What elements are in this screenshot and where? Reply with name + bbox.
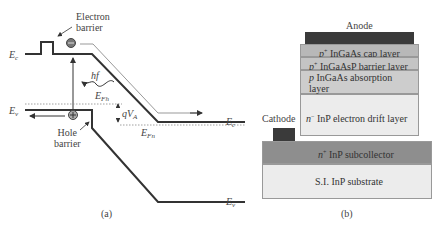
electron-barrier-label-line2: barrier <box>76 22 110 33</box>
ec-left-label: Ec <box>9 49 18 64</box>
efn-label: EFn <box>141 127 155 142</box>
layer-drift: n− InP electron drift layer <box>300 94 419 136</box>
electron-barrier-label-line1: Electron <box>76 11 110 22</box>
cathode-label: Cathode <box>262 113 295 124</box>
valence-band <box>25 110 245 202</box>
anode-label: Anode <box>346 20 373 31</box>
layer-barrier: p+ InGaAsP barrier layer <box>300 57 419 70</box>
layer-absorption: p InGaAs absorption layer <box>300 70 419 94</box>
hole-barrier-label: Hole barrier <box>54 127 81 149</box>
ev-left-label: Ev <box>9 105 18 120</box>
photon-label: hf <box>91 70 99 81</box>
caption-a: (a) <box>101 208 112 219</box>
layer-cap: p+ InGaAs cap layer <box>300 44 419 57</box>
layer-subcollector: n+ InP subcollector <box>262 141 432 164</box>
ec-right-label: Ec <box>226 116 235 131</box>
ev-right-label: Ev <box>226 196 235 211</box>
caption-b: (b) <box>341 208 353 219</box>
anode-contact <box>305 32 414 44</box>
electron-barrier-label: Electron barrier <box>76 11 110 33</box>
photon-wave <box>82 81 114 87</box>
cathode-contact <box>273 128 295 141</box>
layer-substrate: S.I. InP substrate <box>262 164 432 199</box>
efh-label: EFh <box>95 90 109 105</box>
qva-label: qVA <box>122 108 137 123</box>
hole-barrier-label-line1: Hole <box>54 127 81 138</box>
hole-barrier-label-line2: barrier <box>54 138 81 149</box>
